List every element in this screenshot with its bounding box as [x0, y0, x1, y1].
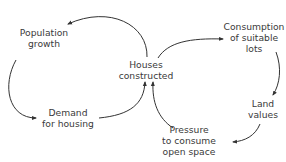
node-land-values: Land values	[248, 98, 278, 120]
node-line: to consume	[162, 135, 216, 146]
node-line: Land	[248, 98, 278, 109]
node-line: growth	[20, 38, 68, 49]
node-line: lots	[224, 43, 285, 54]
arrow-consumption-to-land	[273, 52, 280, 95]
node-line: Pressure	[162, 124, 216, 135]
node-line: constructed	[119, 70, 174, 81]
arrow-population-to-demand	[9, 60, 36, 118]
node-demand-for-housing: Demand for housing	[42, 107, 94, 129]
arrow-demand-to-houses	[99, 82, 145, 118]
node-consumption-of-suitable-lots: Consumption of suitable lots	[224, 21, 285, 54]
node-line: for housing	[42, 118, 94, 129]
arrow-houses-to-population	[68, 17, 147, 57]
node-line: open space	[162, 146, 216, 157]
node-line: Consumption	[224, 21, 285, 32]
node-line: Population	[20, 27, 68, 38]
causal-loop-diagram: Population growth Houses constructed Con…	[0, 0, 286, 162]
node-line: Houses	[119, 59, 174, 70]
arrow-land-to-pressure	[233, 124, 260, 142]
node-houses-constructed: Houses constructed	[119, 59, 174, 81]
node-line: values	[248, 109, 278, 120]
node-pressure-to-consume-open-space: Pressure to consume open space	[162, 124, 216, 157]
node-population-growth: Population growth	[20, 27, 68, 49]
arrow-houses-to-consumption	[158, 39, 223, 58]
node-line: of suitable	[224, 32, 285, 43]
arrow-pressure-to-houses	[153, 82, 173, 128]
node-line: Demand	[42, 107, 94, 118]
